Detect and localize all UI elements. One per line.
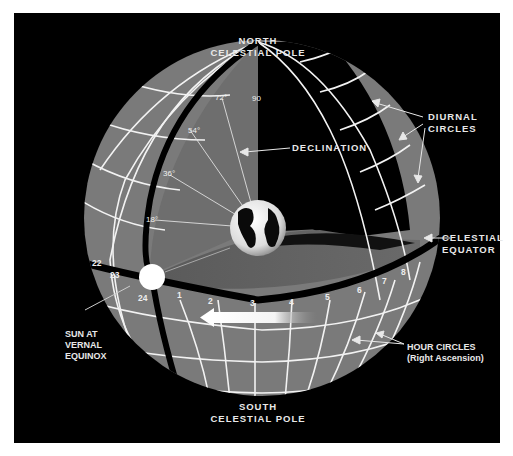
hour-mark-3: 3: [250, 298, 255, 308]
celestial-sphere-diagram: 90 72° 54° 36° 18° 22 23 24 1 2 3 4 5 6 …: [0, 0, 513, 456]
dec-mark-54: 54°: [188, 126, 200, 135]
hour-mark-2: 2: [208, 296, 213, 306]
svg-text:DIURNAL: DIURNAL: [428, 111, 478, 122]
hour-mark-22: 22: [92, 258, 102, 268]
hour-mark-8: 8: [401, 267, 406, 277]
declination-label: DECLINATION: [292, 142, 367, 153]
svg-text:NORTH: NORTH: [239, 35, 278, 46]
dec-mark-72: 72°: [215, 93, 227, 102]
hour-mark-1: 1: [177, 290, 182, 300]
dec-mark-36: 36°: [163, 169, 175, 178]
sun-vernal-equinox-label: SUN AT VERNAL EQUINOX: [65, 329, 107, 361]
svg-text:HOUR CIRCLES: HOUR CIRCLES: [407, 342, 476, 352]
hour-mark-6: 6: [357, 285, 362, 295]
hour-mark-4: 4: [289, 297, 294, 307]
south-pole-label: SOUTH CELESTIAL POLE: [210, 401, 305, 424]
dec-mark-18: 18°: [146, 215, 158, 224]
dec-mark-90: 90: [252, 94, 261, 103]
hour-circles-label: HOUR CIRCLES (Right Ascension): [407, 342, 484, 363]
hour-mark-7: 7: [382, 276, 387, 286]
svg-text:(Right Ascension): (Right Ascension): [407, 353, 484, 363]
diurnal-circles-label: DIURNAL CIRCLES: [428, 111, 478, 134]
svg-text:EQUINOX: EQUINOX: [65, 351, 107, 361]
hour-mark-24: 24: [138, 293, 148, 303]
svg-text:CELESTIAL POLE: CELESTIAL POLE: [210, 47, 305, 58]
svg-text:SOUTH: SOUTH: [239, 401, 277, 412]
hour-mark-5: 5: [325, 292, 330, 302]
svg-text:VERNAL: VERNAL: [65, 340, 103, 350]
hour-mark-23: 23: [110, 270, 120, 280]
sun-icon: [139, 264, 165, 290]
svg-text:SUN AT: SUN AT: [65, 329, 98, 339]
svg-text:CELESTIAL: CELESTIAL: [442, 232, 504, 243]
svg-text:CIRCLES: CIRCLES: [428, 123, 477, 134]
svg-text:CELESTIAL POLE: CELESTIAL POLE: [210, 413, 305, 424]
earth-globe: [230, 200, 286, 256]
svg-text:EQUATOR: EQUATOR: [442, 244, 496, 255]
celestial-equator-label: CELESTIAL EQUATOR: [442, 232, 504, 255]
north-pole-label: NORTH CELESTIAL POLE: [210, 35, 305, 58]
